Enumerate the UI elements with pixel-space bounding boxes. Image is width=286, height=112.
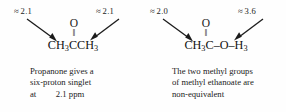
formula-seg: CCH (69, 38, 94, 52)
caption-line: Propanone gives a (30, 66, 142, 77)
approx-symbol: ≈ (96, 6, 101, 16)
caption-line: of methyl ethanoate are (172, 77, 286, 88)
panel-propanone: ≈2.1 ≈2.1 O ‖ CH3CCH3 Propanone gives a … (0, 0, 146, 112)
chemistry-figure: ≈2.1 ≈2.1 O ‖ CH3CCH3 Propanone gives a … (0, 0, 286, 112)
caption-methyl-ethanoate: The two methyl groups of methyl ethanoat… (172, 66, 286, 100)
approx-symbol: ≈ (238, 6, 243, 16)
shift-label-propanone-left: ≈2.1 (14, 6, 32, 16)
structure-methyl-ethanoate: O ‖ CH3C–O–H3 (146, 18, 286, 55)
shift-value: 2.1 (21, 6, 33, 16)
formula-propanone: CH3CCH3 (0, 39, 146, 55)
formula-seg: C–O–H (206, 38, 244, 52)
formula-methyl-ethanoate: CH3C–O–H3 (146, 39, 286, 55)
shift-value: 3.6 (245, 6, 257, 16)
shift-label-propanone-right: ≈2.1 (96, 6, 114, 16)
caption-line: at 2.1 ppm (30, 89, 142, 100)
formula-seg: CH (184, 38, 201, 52)
approx-symbol: ≈ (150, 6, 155, 16)
caption-line: non-equivalent (172, 89, 286, 100)
double-bond-glyph: ‖ (2, 28, 146, 38)
caption-propanone: Propanone gives a six-proton singlet at … (30, 66, 142, 100)
approx-symbol: ≈ (14, 6, 19, 16)
caption-line: six-proton singlet (30, 77, 142, 88)
shift-value: 2.0 (157, 6, 169, 16)
shift-label-ethanoate-right: ≈3.6 (238, 6, 256, 16)
shift-value: 2.1 (103, 6, 115, 16)
structure-propanone: O ‖ CH3CCH3 (0, 18, 146, 55)
formula-sub: 3 (243, 44, 247, 53)
shift-label-ethanoate-left: ≈2.0 (150, 6, 168, 16)
formula-seg: CH (48, 38, 65, 52)
double-bond-glyph: ‖ (126, 28, 286, 38)
formula-sub: 3 (94, 44, 98, 53)
caption-line: The two methyl groups (172, 66, 286, 77)
panel-methyl-ethanoate: ≈2.0 ≈3.6 O ‖ CH3C–O–H3 The two methyl g… (146, 0, 286, 112)
